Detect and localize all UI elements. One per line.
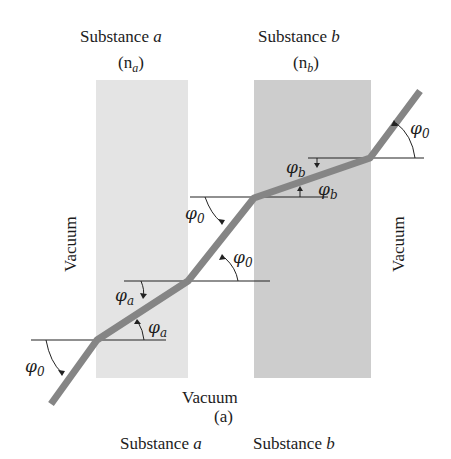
substance-b-slab [254,80,371,378]
next-caption-substance-b: Substance b [253,434,335,453]
phi0-label-1: φ0 [25,356,45,379]
phi0-label-2: φ0 [185,203,205,226]
phi0-label-3: φ0 [233,247,253,270]
substance-a-title: Substance a [80,27,162,46]
figure-caption: (a) [214,407,233,426]
next-caption-substance-a: Substance a [120,434,202,453]
substance-b-title: Substance b [258,27,340,46]
refraction-diagram: Substance a (na) Substance b (nb) Vacuum… [0,0,451,459]
vacuum-right-label: Vacuum [389,216,408,272]
vacuum-bottom-label: Vacuum [182,388,238,407]
vacuum-left-label: Vacuum [61,216,80,272]
substance-b-index: (nb) [293,53,319,75]
phi0-label-4: φ0 [410,118,430,141]
substance-a-index: (na) [118,53,144,75]
